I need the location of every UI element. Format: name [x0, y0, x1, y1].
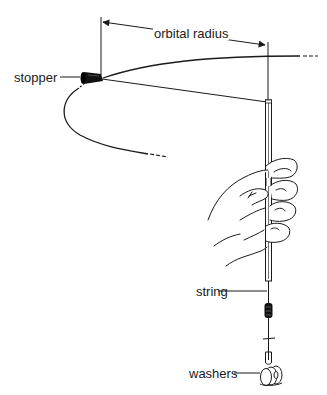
- stopper-label: stopper: [14, 71, 57, 84]
- apparatus-diagram: [0, 0, 327, 395]
- orbit-path-upper: [103, 56, 300, 78]
- orbit-path-lower-gap: [80, 84, 84, 87]
- orbit-path-lower: [64, 88, 148, 154]
- string-tie: [263, 338, 275, 339]
- washers-label: washers: [189, 367, 237, 380]
- string-label: string: [196, 285, 228, 298]
- orbital-radius-label: orbital radius: [153, 27, 229, 40]
- orbit-path-lower-dashed: [150, 154, 168, 157]
- stopper-icon: [81, 72, 104, 84]
- marker-clip-icon: [265, 303, 273, 318]
- whirl-string: [102, 79, 267, 102]
- tube-visible-between-fingers: [266, 178, 271, 186]
- hand-icon: [208, 158, 298, 266]
- washers-icon: [260, 366, 282, 386]
